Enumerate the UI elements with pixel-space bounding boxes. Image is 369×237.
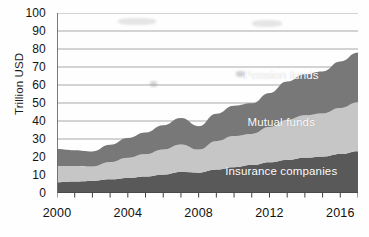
stacked-area-chart: Trillion USD 0102030405060708090100 Pens… [0, 0, 369, 237]
x-tick-label-2004: 2004 [114, 206, 143, 220]
x-tick-label-2008: 2008 [184, 206, 213, 220]
y-tick-100: 100 [25, 7, 46, 19]
y-tick-20: 20 [32, 151, 46, 163]
y-tick-40: 40 [32, 115, 46, 127]
y-tick-50: 50 [32, 97, 46, 109]
x-tick-label-2012: 2012 [255, 206, 284, 220]
y-tick-30: 30 [32, 133, 46, 145]
series-label-insurance-companies: Insurance companies [225, 165, 337, 177]
x-tick-label-2016: 2016 [326, 206, 355, 220]
series-label-pension-funds: Pension funds [244, 69, 319, 81]
series-label-mutual-funds: Mutual funds [247, 116, 315, 128]
y-tick-0: 0 [39, 187, 46, 199]
y-tick-90: 90 [32, 25, 46, 37]
y-tick-70: 70 [32, 61, 46, 73]
y-axis-tick-labels: 0102030405060708090100 [0, 0, 52, 237]
y-tick-10: 10 [32, 169, 46, 181]
x-tick-marks [57, 193, 358, 199]
x-axis-tick-labels: 20002004200820122016 [57, 193, 358, 233]
plot-area: Pension fundsMutual fundsInsurance compa… [57, 13, 358, 193]
y-tick-80: 80 [32, 43, 46, 55]
y-tick-60: 60 [32, 79, 46, 91]
x-tick-label-2000: 2000 [43, 206, 72, 220]
